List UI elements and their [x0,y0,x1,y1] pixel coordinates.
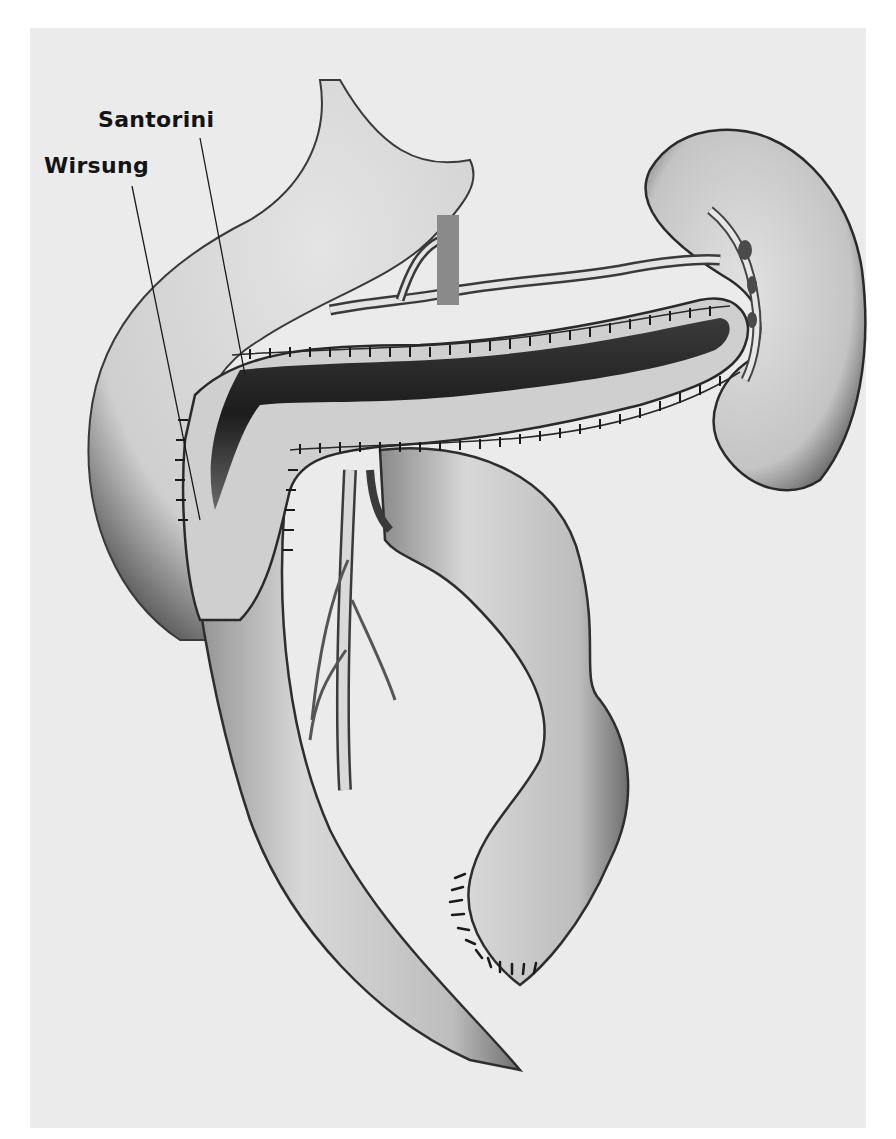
mesenteric-vessels [310,470,395,790]
label-santorini: Santorini [98,109,214,131]
label-wirsung: Wirsung [44,155,149,177]
